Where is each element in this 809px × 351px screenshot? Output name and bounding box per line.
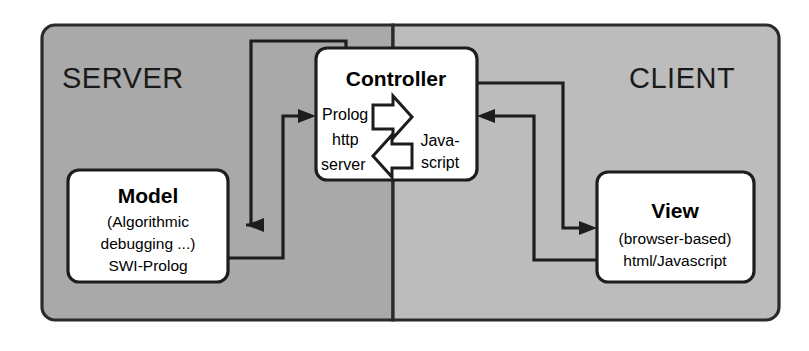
model-title: Model [118,184,179,207]
model-subline-2: debugging ...) [101,235,196,252]
mvc-architecture-diagram: SERVER CLIENT Model [0,0,809,351]
controller-right-line-2: script [421,154,460,171]
controller-left-line-3: server [321,156,366,173]
node-controller[interactable]: Controller Prolog http server Java- scri… [316,48,477,180]
server-zone-label: SERVER [62,62,184,94]
model-subline-3: SWI-Prolog [108,257,187,274]
model-subline-1: (Algorithmic [107,213,189,230]
node-view[interactable]: View (browser-based) html/Javascript [597,172,754,282]
client-zone-label: CLIENT [629,62,735,94]
controller-left-line-1: Prolog [322,106,368,123]
view-subline-1: (browser-based) [619,230,732,247]
view-subline-2: html/Javascript [623,252,727,269]
controller-right-line-1: Java- [420,132,459,149]
node-model[interactable]: Model (Algorithmic debugging ...) SWI-Pr… [68,170,228,282]
controller-title: Controller [346,67,446,90]
controller-left-line-2: http [332,131,359,148]
diagram-canvas: SERVER CLIENT Model [0,0,809,351]
view-title: View [651,199,699,222]
